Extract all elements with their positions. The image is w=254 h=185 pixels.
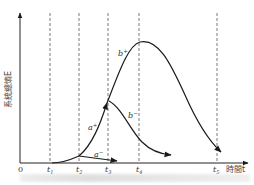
y-axis-title: 系統總熵E — [3, 71, 13, 108]
label-b-minus: b− — [128, 110, 138, 120]
curve-base — [52, 156, 79, 163]
x-axis-title: 時間t — [226, 165, 245, 174]
label-a-minus: a− — [94, 149, 104, 159]
time-gridlines — [50, 13, 217, 163]
curve-b-plus — [107, 42, 221, 152]
entropy-time-diagram: a+ a− b− b+ 0 t1 t2 t3 t4 t5 時間t 系統總熵E — [0, 0, 254, 185]
axes — [20, 13, 248, 163]
origin-label: 0 — [18, 165, 23, 174]
curve-b-minus — [109, 101, 171, 155]
curves — [52, 42, 221, 163]
figure-caption-blurred — [20, 174, 250, 182]
